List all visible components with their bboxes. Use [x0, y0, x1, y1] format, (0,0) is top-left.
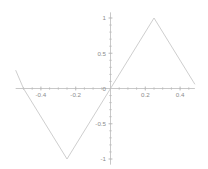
- x-tick-label: 0.2: [141, 91, 150, 98]
- x-tick-label: -0.2: [70, 91, 81, 98]
- y-tick-label: 0.5: [97, 50, 106, 57]
- plot-area: -0.4-0.200.20.410.5-0.5-1: [0, 0, 208, 169]
- x-tick-label: -0.4: [36, 91, 47, 98]
- y-tick-label: -0.5: [95, 120, 106, 127]
- x-tick-label: 0: [103, 85, 107, 92]
- x-tick-label: 0.4: [176, 91, 185, 98]
- y-tick-label: 1: [103, 14, 107, 21]
- chart-figure: -0.4-0.200.20.410.5-0.5-1: [0, 0, 208, 169]
- y-tick-label: -1: [100, 155, 106, 162]
